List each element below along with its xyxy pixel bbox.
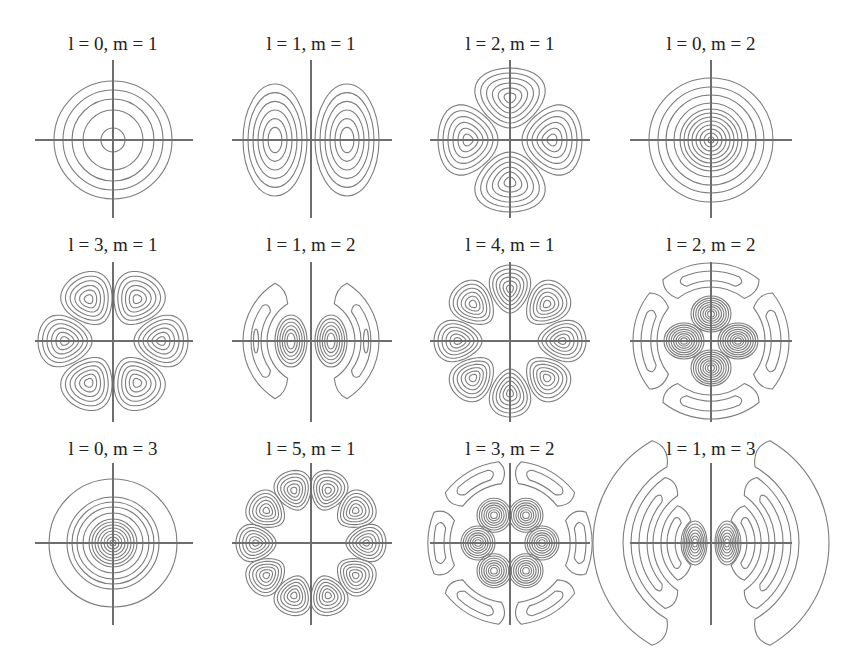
- panel-title: l = 1, m = 1: [267, 33, 356, 54]
- panel-title: l = 4, m = 1: [466, 234, 555, 255]
- panel-title: l = 3, m = 1: [69, 234, 158, 255]
- contour-figure: l = 0, m = 1 l = 1, m = 1 l = 2, m = 1 l…: [0, 0, 852, 650]
- panel-title: l = 5, m = 1: [267, 438, 356, 459]
- panel-title: l = 1, m = 3: [667, 438, 756, 459]
- panel-title: l = 2, m = 1: [466, 33, 555, 54]
- panel-title: l = 2, m = 2: [667, 234, 756, 255]
- panel-title: l = 0, m = 1: [69, 33, 158, 54]
- panel-title: l = 0, m = 3: [69, 438, 158, 459]
- panel-title: l = 3, m = 2: [466, 438, 555, 459]
- panel-title: l = 0, m = 2: [667, 33, 756, 54]
- panel-title: l = 1, m = 2: [267, 234, 356, 255]
